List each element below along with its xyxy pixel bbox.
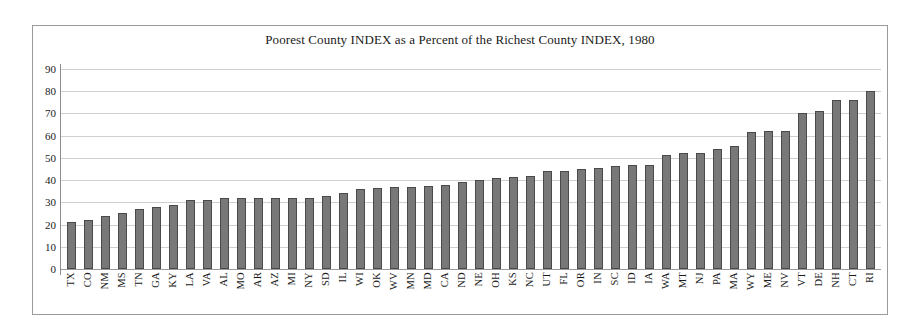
y-tick-label-20: 20 (45, 219, 56, 231)
x-tick-label-SC: SC (610, 272, 621, 285)
bar-SD[interactable] (322, 196, 331, 269)
x-label-slot-NC: NC (522, 272, 539, 314)
bar-slot-MO (233, 69, 250, 269)
bar-NE[interactable] (475, 180, 484, 269)
bar-slot-KY (165, 69, 182, 269)
bar-NM[interactable] (101, 216, 110, 269)
x-label-slot-TN: TN (131, 272, 148, 314)
x-tick-label-MT: MT (678, 272, 689, 288)
bar-NY[interactable] (305, 198, 314, 269)
x-label-slot-WV: WV (386, 272, 403, 314)
gridline-0: 0 (61, 269, 881, 270)
x-tick-label-MO: MO (236, 272, 247, 290)
bar-WA[interactable] (662, 155, 671, 269)
bar-FL[interactable] (560, 171, 569, 269)
bar-ID[interactable] (628, 165, 637, 269)
bar-CO[interactable] (84, 220, 93, 269)
bar-MD[interactable] (424, 186, 433, 269)
bar-UT[interactable] (543, 171, 552, 269)
x-label-slot-NH: NH (828, 272, 845, 314)
bar-slot-TX (63, 69, 80, 269)
bar-IL[interactable] (339, 193, 348, 269)
x-label-slot-WA: WA (658, 272, 675, 314)
bar-MI[interactable] (288, 198, 297, 269)
x-tick-label-TN: TN (134, 272, 145, 287)
y-tick-label-30: 30 (45, 196, 56, 208)
bar-PA[interactable] (713, 149, 722, 269)
bar-AR[interactable] (254, 198, 263, 269)
bar-WI[interactable] (356, 189, 365, 269)
bar-OH[interactable] (492, 178, 501, 269)
x-label-slot-SD: SD (318, 272, 335, 314)
x-label-slot-MS: MS (114, 272, 131, 314)
bar-MO[interactable] (237, 198, 246, 269)
y-tick-label-0: 0 (51, 263, 57, 275)
bar-slot-WA (658, 69, 675, 269)
bar-ME[interactable] (764, 131, 773, 269)
bar-AZ[interactable] (271, 198, 280, 269)
x-tick-label-LA: LA (185, 272, 196, 287)
bar-LA[interactable] (186, 200, 195, 269)
x-tick-label-GA: GA (151, 272, 162, 288)
bar-TX[interactable] (67, 222, 76, 269)
bar-AL[interactable] (220, 198, 229, 269)
x-tick-label-MD: MD (423, 272, 434, 290)
y-tick-label-80: 80 (45, 85, 56, 97)
bar-slot-MN (403, 69, 420, 269)
bar-MT[interactable] (679, 153, 688, 269)
bar-IN[interactable] (594, 168, 603, 269)
x-tick-label-NM: NM (100, 272, 111, 290)
x-tick-label-RI: RI (865, 272, 876, 283)
bar-NV[interactable] (781, 131, 790, 269)
bar-WY[interactable] (747, 132, 756, 269)
bar-MS[interactable] (118, 213, 127, 269)
bar-slot-ND (454, 69, 471, 269)
x-tick-label-ND: ND (457, 272, 468, 288)
bar-slot-AR (250, 69, 267, 269)
bar-ND[interactable] (458, 182, 467, 269)
bar-slot-MS (114, 69, 131, 269)
bar-WV[interactable] (390, 187, 399, 269)
bar-slot-VT (794, 69, 811, 269)
bar-KS[interactable] (509, 177, 518, 269)
x-label-slot-ID: ID (624, 272, 641, 314)
x-tick-label-IN: IN (593, 272, 604, 284)
bar-RI[interactable] (866, 91, 875, 269)
bar-IA[interactable] (645, 165, 654, 269)
bar-KY[interactable] (169, 205, 178, 269)
bar-MN[interactable] (407, 187, 416, 269)
bar-VA[interactable] (203, 200, 212, 269)
bar-slot-MI (284, 69, 301, 269)
bar-slot-MT (675, 69, 692, 269)
y-tick-label-90: 90 (45, 63, 56, 75)
x-tick-label-MA: MA (729, 272, 740, 290)
x-tick-label-TX: TX (66, 272, 77, 287)
bar-TN[interactable] (135, 209, 144, 269)
bar-CA[interactable] (441, 185, 450, 269)
bar-slot-CT (845, 69, 862, 269)
x-tick-label-NV: NV (780, 272, 791, 288)
bar-slot-NH (828, 69, 845, 269)
bar-NC[interactable] (526, 176, 535, 269)
x-tick-label-VA: VA (202, 272, 213, 286)
chart-title: Poorest County INDEX as a Percent of the… (33, 32, 887, 48)
bar-DE[interactable] (815, 111, 824, 269)
bar-VT[interactable] (798, 113, 807, 269)
bar-NJ[interactable] (696, 153, 705, 269)
x-label-slot-IN: IN (590, 272, 607, 314)
bar-SC[interactable] (611, 166, 620, 269)
bar-slot-IL (335, 69, 352, 269)
bar-slot-GA (148, 69, 165, 269)
plot-area: 9080706050403020100 (61, 69, 881, 269)
bar-slot-IA (641, 69, 658, 269)
x-label-slot-RI: RI (862, 272, 879, 314)
bar-CT[interactable] (849, 100, 858, 269)
bar-OR[interactable] (577, 169, 586, 269)
x-tick-label-ID: ID (627, 272, 638, 284)
x-tick-label-KS: KS (508, 272, 519, 286)
bar-OK[interactable] (373, 188, 382, 269)
bar-MA[interactable] (730, 146, 739, 269)
bar-NH[interactable] (832, 100, 841, 269)
bar-GA[interactable] (152, 207, 161, 269)
x-label-slot-KY: KY (165, 272, 182, 314)
